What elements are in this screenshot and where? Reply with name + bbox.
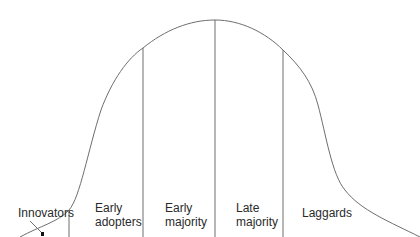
label-early-majority: Early majority	[165, 201, 207, 229]
label-late-majority: Late majority	[236, 201, 278, 229]
label-innovators: Innovators	[18, 206, 74, 220]
label-late-majority-line2: majority	[236, 215, 278, 229]
label-early-majority-line1: Early	[165, 201, 207, 215]
label-early-adopters-line2: adopters	[95, 215, 142, 229]
label-innovators-text: Innovators	[18, 206, 74, 220]
label-laggards: Laggards	[302, 206, 352, 220]
bell-curve-graphic	[0, 0, 420, 237]
label-laggards-text: Laggards	[302, 206, 352, 220]
label-late-majority-line1: Late	[236, 201, 278, 215]
label-early-adopters: Early adopters	[95, 201, 142, 229]
label-early-majority-line2: majority	[165, 215, 207, 229]
adoption-curve-diagram: Innovators Early adopters Early majority…	[0, 0, 420, 237]
label-early-adopters-line1: Early	[95, 201, 142, 215]
bell-curve	[20, 20, 420, 237]
innovators-pointer-dot	[41, 232, 44, 236]
